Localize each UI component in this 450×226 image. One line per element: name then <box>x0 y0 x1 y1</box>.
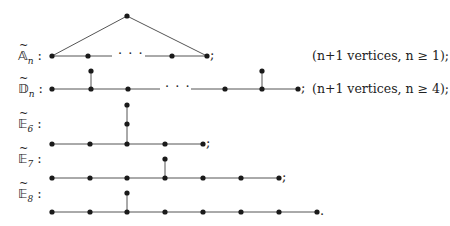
vertex <box>87 141 92 146</box>
vertex <box>124 102 129 107</box>
vertex <box>49 86 54 91</box>
vertex <box>49 209 54 214</box>
vertex <box>49 53 54 58</box>
note-a: (n+1 vertices, n ≥ 1); <box>312 48 449 63</box>
label-d-tilde-n: ~𝔻n : <box>18 81 43 99</box>
vertex <box>124 121 129 126</box>
vertices <box>49 13 319 214</box>
vertex <box>259 86 264 91</box>
label-colon: : <box>38 48 42 63</box>
terminal-d: ; <box>301 80 305 95</box>
ellipsis-d: · · · <box>165 79 191 94</box>
vertex <box>200 209 205 214</box>
terminal-e7: ; <box>282 169 286 184</box>
label-e-tilde-6: ~𝔼6 : <box>18 116 42 134</box>
vertex <box>88 86 93 91</box>
vertex <box>124 175 129 180</box>
vertex <box>276 209 281 214</box>
vertex <box>125 86 130 91</box>
vertex <box>238 175 243 180</box>
vertex <box>162 209 167 214</box>
label-sub: 6 <box>27 124 33 134</box>
terminal-e8: . <box>320 203 324 218</box>
vertex <box>162 175 167 180</box>
vertex <box>200 175 205 180</box>
label-colon: : <box>37 116 41 131</box>
ellipsis-a: · · · <box>118 46 144 61</box>
vertex <box>124 190 129 195</box>
vertex <box>238 209 243 214</box>
vertex <box>88 68 93 73</box>
vertex <box>169 53 174 58</box>
vertex <box>222 86 227 91</box>
vertex <box>87 175 92 180</box>
label-e-tilde-7: ~𝔼7 : <box>18 151 42 169</box>
edge <box>52 16 127 56</box>
vertex <box>162 141 167 146</box>
vertex <box>124 13 129 18</box>
vertex <box>49 141 54 146</box>
label-e-tilde-8: ~𝔼8 : <box>18 186 42 204</box>
label-a-tilde-n: ~𝔸n : <box>18 48 42 66</box>
vertex <box>87 209 92 214</box>
dynkin-diagrams-canvas <box>0 0 450 226</box>
label-colon: : <box>39 81 43 96</box>
vertex <box>314 209 319 214</box>
vertex <box>124 141 129 146</box>
vertex <box>295 86 300 91</box>
terminal-e6: ; <box>206 135 210 150</box>
vertex <box>204 53 209 58</box>
vertex <box>162 156 167 161</box>
vertex <box>49 175 54 180</box>
label-sub: n <box>29 89 35 99</box>
label-colon: : <box>37 186 41 201</box>
vertex <box>85 53 90 58</box>
terminal-a: ; <box>210 47 214 62</box>
vertex <box>259 68 264 73</box>
label-colon: : <box>37 151 41 166</box>
label-sub: 8 <box>27 194 33 204</box>
edges <box>52 16 317 212</box>
vertex <box>200 141 205 146</box>
note-d: (n+1 vertices, n ≥ 4); <box>312 81 449 96</box>
label-sub: 7 <box>27 159 33 169</box>
vertex <box>124 209 129 214</box>
vertex <box>276 175 281 180</box>
label-sub: n <box>28 56 34 66</box>
